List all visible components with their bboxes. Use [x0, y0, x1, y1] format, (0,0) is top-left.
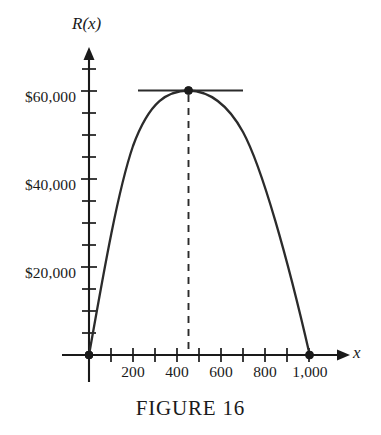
origin-point	[85, 351, 93, 359]
y-tick-label-20000: $20,000	[2, 264, 76, 282]
x-axis-title: x	[353, 343, 361, 363]
y-tick-label-60000: $60,000	[2, 88, 76, 106]
figure-caption: FIGURE 16	[0, 396, 381, 421]
right-root-point	[306, 351, 314, 359]
x-tick-label-1000: 1,000	[283, 363, 337, 381]
vertex-point	[185, 87, 193, 95]
figure-container: $60,000 $40,000 $20,000 200 400 600 800 …	[0, 0, 381, 435]
y-axis-title: R(x)	[72, 14, 101, 34]
x-axis-arrow-icon	[337, 350, 350, 361]
y-tick-label-40000: $40,000	[2, 176, 76, 194]
y-axis-arrow-icon	[84, 47, 95, 60]
revenue-curve	[89, 91, 310, 356]
x-tick-label-400: 400	[152, 363, 202, 381]
x-tick-label-200: 200	[108, 363, 158, 381]
x-tick-label-600: 600	[196, 363, 246, 381]
